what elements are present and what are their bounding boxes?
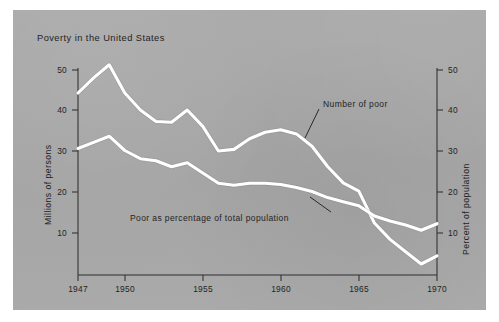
series-poor-line — [78, 65, 437, 264]
annotation-poor-percentage: Poor as percentage of total population — [130, 197, 331, 223]
y2-axis-title: Percent of population — [461, 163, 471, 255]
annotation-number-of-poor: Number of poor — [305, 99, 388, 138]
y-axis-title: Millions of persons — [43, 144, 53, 225]
annotation-label-poor-percentage: Poor as percentage of total population — [130, 213, 289, 223]
left-tick-label-10: 10 — [57, 228, 67, 238]
left-tick-label-20: 20 — [57, 187, 67, 197]
left-tick-label-40: 40 — [57, 105, 67, 115]
annotation-leader-line-poor — [305, 109, 319, 138]
right-tick-label-20: 20 — [448, 187, 458, 197]
x-axis-ticks: 1947 1950 1955 1960 1965 1970 — [68, 275, 447, 294]
right-tick-label-30: 30 — [448, 146, 458, 156]
x-tick-label-1950: 1950 — [115, 284, 135, 294]
x-tick-label-1955: 1955 — [193, 284, 213, 294]
line-chart: 50 40 30 20 10 50 40 30 20 10 — [13, 10, 486, 310]
x-tick-label-1970: 1970 — [427, 284, 447, 294]
right-tick-label-10: 10 — [448, 228, 458, 238]
left-tick-label-30: 30 — [57, 146, 67, 156]
chart-plate: Poverty in the United States 50 40 — [13, 10, 486, 310]
left-tick-label-50: 50 — [57, 65, 67, 75]
left-axis-ticks: 50 40 30 20 10 — [57, 65, 78, 238]
right-tick-label-50: 50 — [448, 65, 458, 75]
figure-container: Poverty in the United States 50 40 — [0, 0, 499, 322]
right-tick-label-40: 40 — [448, 105, 458, 115]
x-tick-label-1965: 1965 — [349, 284, 369, 294]
x-tick-label-1960: 1960 — [271, 284, 291, 294]
page-title: Poverty in the United States — [37, 33, 165, 43]
right-axis-ticks: 50 40 30 20 10 — [437, 65, 458, 238]
series-number-of-poor — [78, 65, 437, 264]
annotation-label-number-of-poor: Number of poor — [323, 99, 388, 109]
x-tick-label-1947: 1947 — [68, 284, 88, 294]
